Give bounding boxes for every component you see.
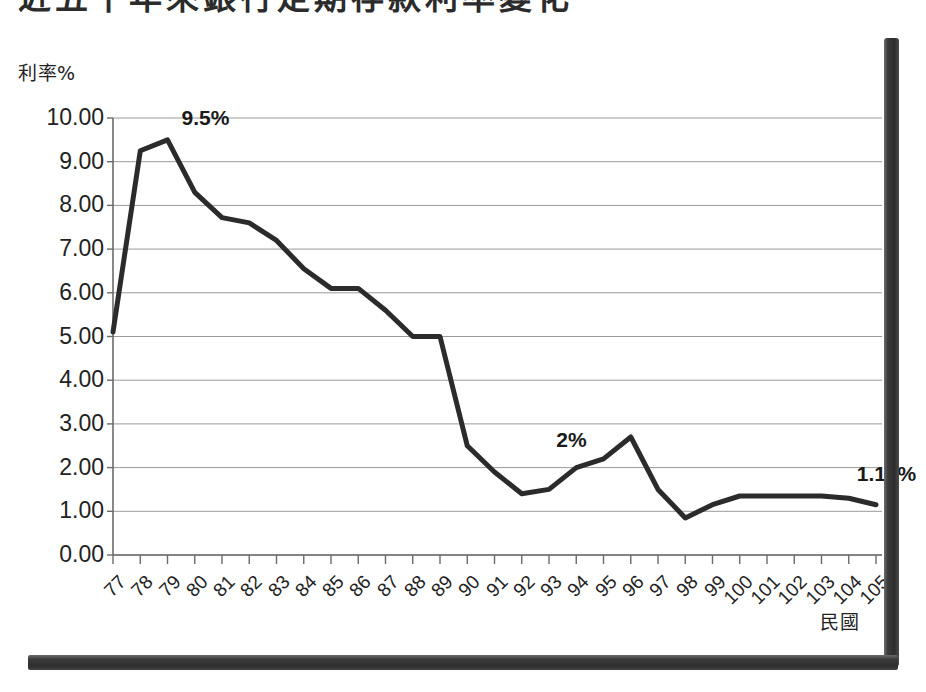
interest-rate-line-chart: 利率% 10.009.008.007.006.005.004.003.002.0… bbox=[0, 0, 926, 692]
annotation-9-5pct: 9.5% bbox=[182, 106, 230, 130]
annotation-2pct: 2% bbox=[556, 428, 586, 452]
x-axis-title: 民國 bbox=[820, 607, 860, 634]
x-axis-tick-labels: 7778798081828384858687888990919293949596… bbox=[0, 0, 926, 692]
annotation-1-15pct: 1.15% bbox=[857, 462, 917, 486]
